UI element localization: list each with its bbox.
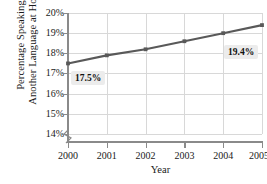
data-point-marker xyxy=(144,47,148,51)
data-point-marker xyxy=(105,53,109,57)
data-point-marker xyxy=(183,39,187,43)
data-label-callout: 19.4% xyxy=(224,45,258,59)
data-label-callout: 17.5% xyxy=(71,71,105,85)
data-point-marker xyxy=(260,23,264,27)
data-point-marker xyxy=(66,62,70,66)
x-axis-title: Year xyxy=(58,164,263,175)
chart-container: Percentage Speaking Another Language at … xyxy=(0,0,267,184)
data-series-line xyxy=(0,0,267,184)
data-point-marker xyxy=(221,31,225,35)
